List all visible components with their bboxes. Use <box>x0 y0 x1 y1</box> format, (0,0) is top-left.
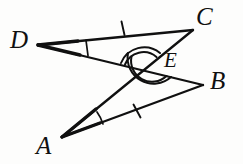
segment-AC-taper <box>62 109 96 137</box>
vertex-label-A: A <box>36 133 51 158</box>
segment-DB-taper <box>38 45 80 55</box>
vertex-label-C: C <box>196 4 213 29</box>
segment-DC-taper <box>38 41 78 45</box>
segment-group <box>38 30 203 137</box>
vertex-label-D: D <box>10 27 28 52</box>
tick-mark-DC <box>122 22 125 36</box>
vertex-label-E: E <box>164 50 177 71</box>
angle-arc-D <box>86 40 88 55</box>
geometry-figure: D C E B A <box>0 0 243 164</box>
segment-AB-taper <box>62 123 100 137</box>
vertex-label-B: B <box>210 68 225 93</box>
